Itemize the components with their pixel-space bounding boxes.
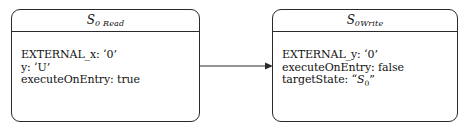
targetstate-prefix: targetState: “	[282, 73, 357, 86]
state-title-subscript: 0Write	[355, 19, 384, 28]
state-transition-diagram: S0 Read EXTERNAL_x: ‘0’ y: ‘U’ executeOn…	[0, 0, 469, 132]
attribute-row-targetstate: targetState: “S0”	[282, 74, 457, 91]
attribute-row: EXTERNAL_y: ‘0’	[282, 49, 457, 62]
state-title-s0write: S0Write	[273, 10, 457, 32]
targetstate-value: S0	[357, 73, 369, 86]
transition-arrow-read-to-write[interactable]	[199, 58, 274, 74]
state-node-s0write[interactable]: S0Write EXTERNAL_y: ‘0’ executeOnEntry: …	[272, 9, 458, 122]
targetstate-state-main: S	[357, 73, 364, 86]
state-title-subscript: 0 Read	[95, 19, 124, 28]
state-title-main: S	[347, 13, 355, 27]
state-body-s0read: EXTERNAL_x: ‘0’ y: ‘U’ executeOnEntry: t…	[12, 32, 199, 87]
state-title-main: S	[87, 13, 95, 27]
targetstate-suffix: ”	[369, 73, 375, 86]
state-node-s0read[interactable]: S0 Read EXTERNAL_x: ‘0’ y: ‘U’ executeOn…	[11, 9, 200, 122]
state-body-s0write: EXTERNAL_y: ‘0’ executeOnEntry: false ta…	[273, 32, 457, 91]
state-title-s0read: S0 Read	[12, 10, 199, 32]
attribute-row: executeOnEntry: true	[21, 74, 199, 87]
attribute-row: EXTERNAL_x: ‘0’	[21, 49, 199, 62]
